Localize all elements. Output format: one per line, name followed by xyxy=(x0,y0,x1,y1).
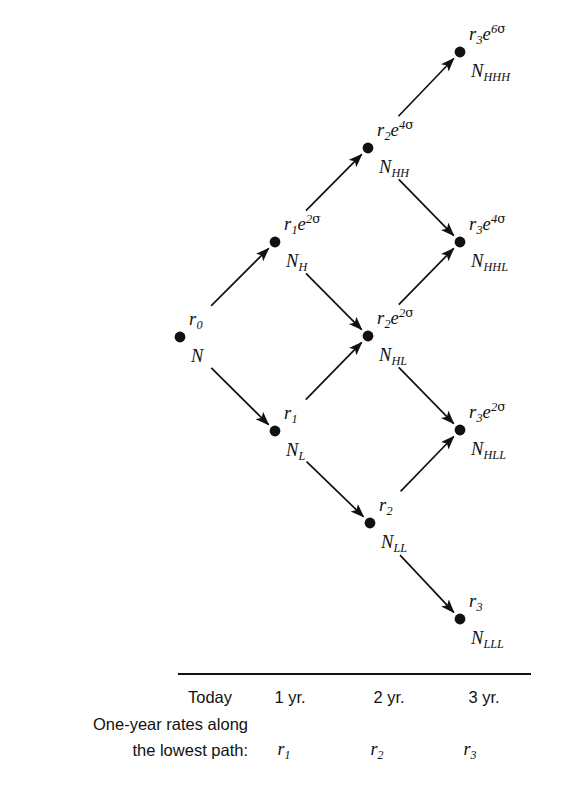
legend-column-2: 2 yr. xyxy=(373,689,404,706)
timeline-legend: One-year rates along the lowest path: To… xyxy=(0,0,561,808)
legend-column-3: 3 yr. xyxy=(468,689,499,706)
legend-rate-2: r3 xyxy=(464,740,477,762)
legend-caption-line2: the lowest path: xyxy=(0,742,248,759)
legend-rate-0: r1 xyxy=(278,740,291,762)
binomial-rate-tree-figure: r0Nr1e2σNHr1NLr2e4σNHHr2e2σNHLr2NLLr3e6σ… xyxy=(0,0,561,808)
legend-column-1: 1 yr. xyxy=(274,689,305,706)
legend-rate-1: r2 xyxy=(371,740,384,762)
legend-horizontal-rule xyxy=(178,673,531,675)
legend-column-0: Today xyxy=(188,689,232,706)
legend-caption-line1: One-year rates along xyxy=(0,716,248,733)
